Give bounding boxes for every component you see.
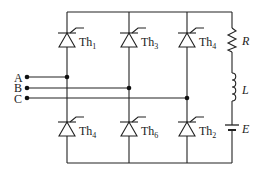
svg-text:Th4: Th4 bbox=[199, 35, 216, 51]
input-a: A bbox=[14, 71, 69, 85]
resistor-icon bbox=[228, 28, 236, 52]
thyristor-th6: Th6 bbox=[120, 117, 158, 140]
input-b: B bbox=[14, 81, 131, 95]
svg-text:Th2: Th2 bbox=[199, 124, 216, 140]
inductor-label: L bbox=[241, 83, 249, 97]
thyristor-th4-bottom: Th4 bbox=[58, 117, 96, 140]
terminal-a bbox=[25, 75, 30, 80]
thyristor-th1: Th1 bbox=[58, 28, 96, 51]
thyristor-th2: Th2 bbox=[178, 117, 216, 140]
svg-text:Th1: Th1 bbox=[79, 35, 96, 51]
terminal-b bbox=[25, 86, 30, 91]
circuit-diagram: A B C Th1 Th3 Th4 Th4 bbox=[0, 0, 263, 173]
inductor-icon bbox=[232, 73, 236, 101]
junction-b bbox=[127, 86, 132, 91]
battery-icon bbox=[225, 125, 239, 130]
svg-text:Th4: Th4 bbox=[79, 124, 96, 140]
input-c: C bbox=[14, 92, 189, 106]
junction-c bbox=[185, 96, 190, 101]
svg-text:Th6: Th6 bbox=[141, 124, 158, 140]
junction-a bbox=[65, 75, 70, 80]
resistor-label: R bbox=[241, 34, 250, 48]
thyristor-th4-top: Th4 bbox=[178, 28, 216, 51]
load-branch: R L E bbox=[225, 12, 250, 163]
thyristor-th3: Th3 bbox=[120, 28, 158, 51]
source-label: E bbox=[241, 122, 250, 136]
terminal-c bbox=[25, 96, 30, 101]
svg-text:Th3: Th3 bbox=[141, 35, 158, 51]
input-c-label: C bbox=[14, 92, 22, 106]
